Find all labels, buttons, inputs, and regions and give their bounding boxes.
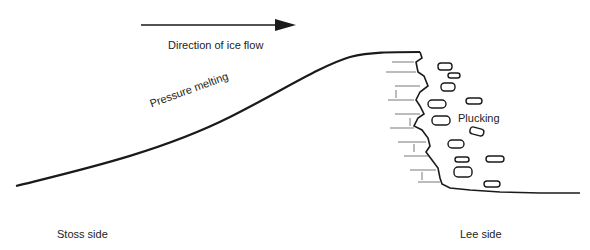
roche-moutonnee-drawing [0,0,590,250]
flow-direction-label: Direction of ice flow [168,39,263,51]
stoss-side-label: Stoss side [57,228,108,240]
diagram-canvas: Direction of ice flow Pressure melting P… [0,0,590,250]
plucked-blocks [428,63,504,187]
lee-side-label: Lee side [460,228,502,240]
flow-arrow-icon [141,19,296,31]
plucking-label: Plucking [458,112,500,124]
